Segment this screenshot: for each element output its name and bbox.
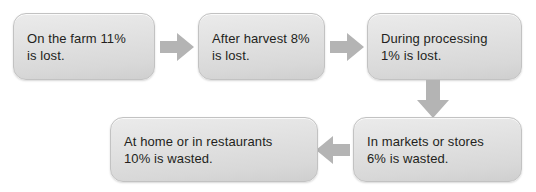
flow-node-during-processing: During processing 1% is lost. — [367, 13, 522, 80]
flow-node-after-harvest: After harvest 8% is lost. — [198, 13, 325, 80]
arrow-left-icon-markets-to-home — [316, 136, 350, 164]
flow-node-label: At home or in restaurants 10% is wasted. — [124, 133, 272, 167]
arrow-right-icon-harvest-to-processing — [330, 33, 364, 61]
arrow-down-icon-processing-to-markets — [417, 80, 449, 118]
flow-node-label: In markets or stores 6% is wasted. — [367, 133, 484, 167]
flow-node-in-markets-or-stores: In markets or stores 6% is wasted. — [353, 117, 522, 182]
flow-node-label: After harvest 8% is lost. — [212, 30, 310, 64]
flow-node-at-home-or-in-restaurants: At home or in restaurants 10% is wasted. — [110, 117, 318, 182]
flow-node-label: During processing 1% is lost. — [381, 30, 487, 64]
arrow-right-icon-farm-to-harvest — [160, 33, 194, 61]
flow-node-on-the-farm: On the farm 11% is lost. — [13, 13, 155, 80]
flowchart-canvas: On the farm 11% is lost. After harvest 8… — [0, 0, 536, 192]
flow-node-label: On the farm 11% is lost. — [27, 30, 126, 64]
